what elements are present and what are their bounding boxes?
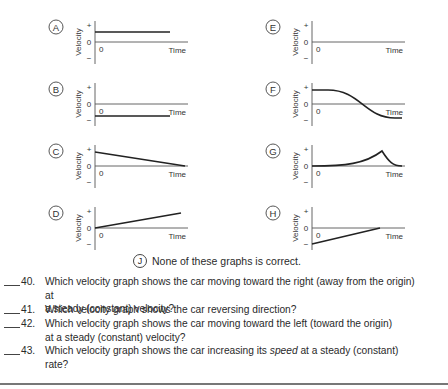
question-text: Which velocity graph shows the car rever… [45, 303, 425, 317]
question-line: at a steady (constant) velocity? [45, 332, 185, 343]
svg-text:−: − [87, 54, 92, 63]
option-letter-circle: D [49, 206, 63, 220]
none-option: J None of these graphs is correct. [133, 254, 301, 268]
emphasis-word: speed [270, 345, 298, 356]
svg-text:−: − [304, 54, 309, 63]
velocity-graph-f: F Velocity + 0 − 0 Time [265, 76, 448, 132]
y-axis-label: Velocity [291, 28, 300, 56]
svg-text:0: 0 [99, 169, 104, 178]
question-text: Which velocity graph shows the car incre… [45, 344, 425, 371]
svg-text:+: + [87, 83, 92, 92]
question-text: Which velocity graph shows the car movin… [45, 317, 425, 344]
svg-text:0: 0 [304, 162, 309, 171]
y-axis-label: Velocity [291, 214, 300, 242]
answer-blank[interactable] [4, 303, 20, 314]
svg-text:0: 0 [304, 100, 309, 109]
question-41: 41. Which velocity graph shows the car r… [4, 303, 425, 317]
svg-text:H: H [270, 208, 277, 219]
x-axis-label: Time [386, 46, 404, 55]
svg-text:+: + [87, 21, 92, 30]
y-axis-label: Velocity [291, 152, 300, 180]
y-axis-label: Velocity [291, 90, 300, 118]
velocity-graph-g: G Velocity + 0 − 0 Time [265, 138, 448, 194]
svg-text:−: − [304, 116, 309, 125]
y-axis-label: Velocity [74, 214, 83, 242]
svg-text:0: 0 [99, 45, 104, 54]
svg-text:C: C [53, 146, 60, 157]
x-axis-label: Time [169, 170, 187, 179]
svg-text:0: 0 [87, 162, 92, 171]
svg-text:−: − [304, 240, 309, 249]
velocity-graph-h: H Velocity + 0 − 0 Time [265, 200, 448, 256]
option-letter-circle: E [266, 20, 280, 34]
svg-text:E: E [270, 22, 276, 33]
svg-text:0: 0 [87, 100, 92, 109]
velocity-graph-d: D Velocity + 0 − 0 Time [48, 200, 238, 256]
y-axis-label: Velocity [74, 28, 83, 56]
svg-text:0: 0 [99, 107, 104, 116]
svg-text:−: − [87, 178, 92, 187]
option-letter-circle: F [266, 82, 280, 96]
svg-text:0: 0 [316, 231, 321, 240]
svg-text:+: + [87, 207, 92, 216]
velocity-graph-b: B Velocity + 0 − 0 Time [48, 76, 238, 132]
svg-text:0: 0 [87, 224, 92, 233]
y-axis-label: Velocity [74, 152, 83, 180]
svg-text:0: 0 [304, 224, 309, 233]
velocity-curve [95, 213, 181, 228]
svg-text:+: + [304, 83, 309, 92]
option-letter-circle: H [266, 206, 280, 220]
option-letter-circle: J [133, 254, 147, 268]
svg-text:G: G [269, 146, 276, 157]
svg-text:+: + [304, 207, 309, 216]
question-line: Which velocity graph shows the car movin… [45, 276, 415, 301]
velocity-graph-e: E Velocity + 0 − 0 Time [265, 14, 448, 70]
bottom-divider [0, 383, 448, 385]
answer-blank[interactable] [4, 275, 20, 286]
velocity-curve [95, 152, 185, 166]
svg-text:0: 0 [87, 38, 92, 47]
svg-text:0: 0 [99, 231, 104, 240]
answer-blank[interactable] [4, 344, 20, 355]
y-axis-label: Velocity [74, 90, 83, 118]
question-number: 42. [21, 317, 45, 344]
svg-text:+: + [304, 21, 309, 30]
svg-text:0: 0 [304, 38, 309, 47]
option-letter-circle: C [49, 144, 63, 158]
velocity-curve [312, 228, 380, 244]
svg-text:0: 0 [316, 107, 321, 116]
x-axis-label: Time [386, 232, 404, 241]
x-axis-label: Time [169, 108, 187, 117]
question-line: at a steady (constant) [298, 345, 399, 356]
question-line: Which velocity graph shows the car movin… [45, 318, 392, 329]
svg-text:A: A [53, 22, 60, 33]
svg-text:0: 0 [316, 169, 321, 178]
svg-text:−: − [87, 116, 92, 125]
option-letter-circle: G [266, 144, 280, 158]
question-line: Which velocity graph shows the car incre… [45, 345, 270, 356]
question-number: 41. [21, 303, 45, 317]
svg-text:F: F [270, 84, 276, 95]
svg-text:−: − [304, 178, 309, 187]
none-option-text: None of these graphs is correct. [152, 255, 301, 267]
question-42: 42. Which velocity graph shows the car m… [4, 317, 425, 344]
velocity-graph-c: C Velocity + 0 − 0 Time [48, 138, 238, 194]
option-letter-circle: B [49, 82, 63, 96]
x-axis-label: Time [169, 232, 187, 241]
x-axis-label: Time [386, 108, 404, 117]
velocity-graph-a: A Velocity + 0 − 0 Time [48, 14, 238, 70]
svg-text:B: B [53, 84, 59, 95]
svg-text:+: + [87, 145, 92, 154]
question-43: 43. Which velocity graph shows the car i… [4, 344, 425, 371]
svg-text:−: − [87, 240, 92, 249]
svg-text:+: + [304, 145, 309, 154]
question-line: rate? [45, 359, 68, 370]
x-axis-label: Time [386, 170, 404, 179]
svg-text:0: 0 [316, 45, 321, 54]
answer-blank[interactable] [4, 317, 20, 328]
option-letter-circle: A [49, 20, 63, 34]
svg-text:D: D [53, 208, 60, 219]
question-number: 43. [21, 344, 45, 371]
x-axis-label: Time [169, 46, 187, 55]
velocity-curve [312, 151, 402, 166]
